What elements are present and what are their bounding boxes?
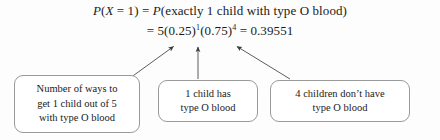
- callout-four-children-not-type-o: 4 children don’t have type O blood: [270, 80, 410, 122]
- callout-one-child-line-2: type O blood: [181, 101, 236, 116]
- equation-second-factor-base: (0.75): [200, 23, 232, 38]
- callout-one-child-line-1: 1 child has: [185, 87, 231, 102]
- callout-four-children-line-1: 4 children don’t have: [295, 87, 384, 102]
- equation-line-1: P(X = 1) = P(exactly 1 child with type O…: [0, 3, 440, 18]
- callout-ways-line-1: Number of ways to: [37, 82, 118, 97]
- equation-close-paren-2: ): [343, 3, 347, 18]
- callout-ways-line-2: get 1 child out of 5: [37, 97, 117, 112]
- equation-equals-sign-3: =: [236, 23, 250, 38]
- arrow-to-second-factor: [237, 47, 290, 80]
- equation-p-symbol-1: P: [93, 3, 101, 18]
- callout-ways-line-3: with type O blood: [39, 111, 115, 126]
- equation-result-value: 0.39551: [250, 23, 293, 38]
- equation-p-symbol-2: P: [153, 3, 161, 18]
- equation-equals-sign-1: =: [139, 3, 153, 18]
- callout-one-child-type-o: 1 child has type O blood: [158, 80, 258, 122]
- arrow-to-coefficient: [130, 47, 174, 79]
- equation-line-2: = 5(0.25)1(0.75)4 = 0.39551: [0, 23, 440, 38]
- equation-event-phrase: exactly 1 child with type O blood: [165, 3, 342, 18]
- callout-four-children-line-2: type O blood: [313, 101, 368, 116]
- equation-equals-one: = 1: [113, 3, 134, 18]
- annotated-formula-figure: P(X = 1) = P(exactly 1 child with type O…: [0, 0, 440, 140]
- equation-equals-sign-2: =: [147, 23, 158, 38]
- callout-number-of-ways: Number of ways to get 1 child out of 5 w…: [14, 75, 140, 133]
- equation-first-factor-base: (0.25): [164, 23, 196, 38]
